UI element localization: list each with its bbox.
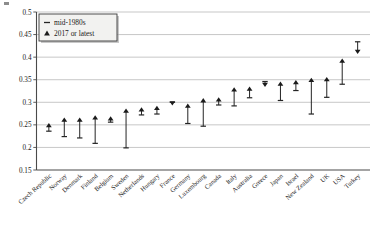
- gini-inequality-chart: 0.150.20.250.30.350.40.450.5 Czech Repub…: [0, 0, 376, 228]
- y-axis-tick-label: 0.25: [19, 121, 32, 129]
- y-axis-tick-label: 0.35: [19, 76, 32, 84]
- y-axis-tick-label: 0.2: [23, 144, 32, 152]
- y-axis-tick-label: 0.5: [23, 9, 32, 17]
- corner-artifact: [4, 2, 9, 5]
- y-axis-tick-label: 0.3: [23, 99, 32, 107]
- y-axis-tick-label: 0.15: [19, 167, 32, 175]
- legend-label-2017: 2017 or latest: [54, 29, 95, 38]
- chart-svg: 0.150.20.250.30.350.40.450.5 Czech Repub…: [0, 0, 376, 228]
- legend: mid-1980s 2017 or latest: [39, 14, 119, 43]
- y-axis-tick-label: 0.4: [23, 54, 32, 62]
- legend-label-mid1980s: mid-1980s: [54, 18, 86, 27]
- y-axis-tick-label: 0.45: [19, 31, 32, 39]
